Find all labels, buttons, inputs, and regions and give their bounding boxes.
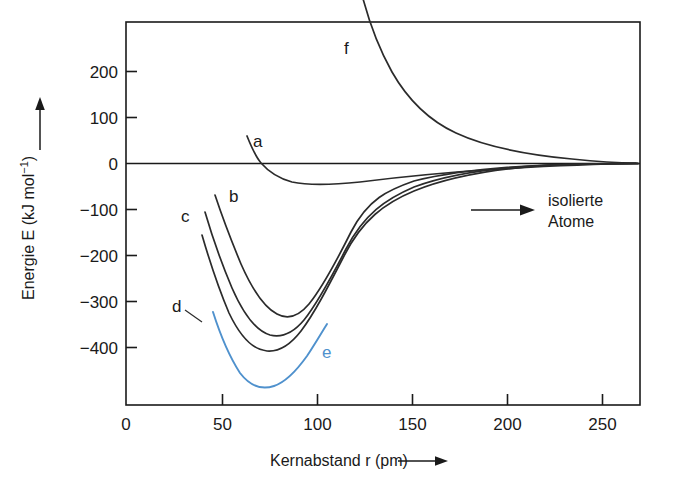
curve-label-f: f xyxy=(344,39,349,58)
y-axis-title-exponent: −1 xyxy=(18,161,30,174)
curve-e xyxy=(213,312,327,387)
isolierte-atome-annotation: isolierte Atome xyxy=(471,192,603,230)
y-axis-ticks xyxy=(126,72,137,348)
x-axis-tick-labels: 0 50 100 150 200 250 xyxy=(121,415,616,434)
curve-d-leader-line xyxy=(185,310,202,322)
x-tick-label: 0 xyxy=(121,415,130,434)
annotation-line-1: isolierte xyxy=(548,192,603,209)
x-tick-label: 150 xyxy=(398,415,426,434)
chart-canvas: 200 100 0 −100 −200 −300 −400 0 50 100 1… xyxy=(0,0,678,494)
y-tick-label: 100 xyxy=(90,109,118,128)
y-tick-label: −400 xyxy=(80,339,118,358)
x-axis-ticks xyxy=(223,394,603,405)
x-tick-label: 200 xyxy=(493,415,521,434)
y-axis-tick-labels: 200 100 0 −100 −200 −300 −400 xyxy=(80,63,118,358)
x-tick-label: 100 xyxy=(303,415,331,434)
potential-energy-diagram: 200 100 0 −100 −200 −300 −400 0 50 100 1… xyxy=(0,0,678,494)
curve-label-d: d xyxy=(172,297,181,316)
annotation-line-2: Atome xyxy=(548,213,594,230)
curve-f xyxy=(361,0,636,163)
x-tick-label: 250 xyxy=(588,415,616,434)
y-tick-label: 200 xyxy=(90,63,118,82)
x-axis-title: Kernabstand r (pm) xyxy=(270,452,408,469)
y-tick-label: −200 xyxy=(80,247,118,266)
x-tick-label: 50 xyxy=(213,415,232,434)
y-tick-label: −300 xyxy=(80,293,118,312)
y-axis-title-close: ) xyxy=(20,156,37,161)
y-tick-label: 0 xyxy=(109,155,118,174)
curve-label-c: c xyxy=(181,207,190,226)
curve-label-a: a xyxy=(253,132,263,151)
y-tick-label: −100 xyxy=(80,201,118,220)
curve-label-e: e xyxy=(322,343,331,362)
y-axis-title-text: Energie E (kJ mol xyxy=(20,174,37,300)
y-axis-title: Energie E (kJ mol−1) xyxy=(18,156,37,300)
curve-label-b: b xyxy=(229,187,238,206)
y-axis-arrow-icon xyxy=(35,97,45,150)
